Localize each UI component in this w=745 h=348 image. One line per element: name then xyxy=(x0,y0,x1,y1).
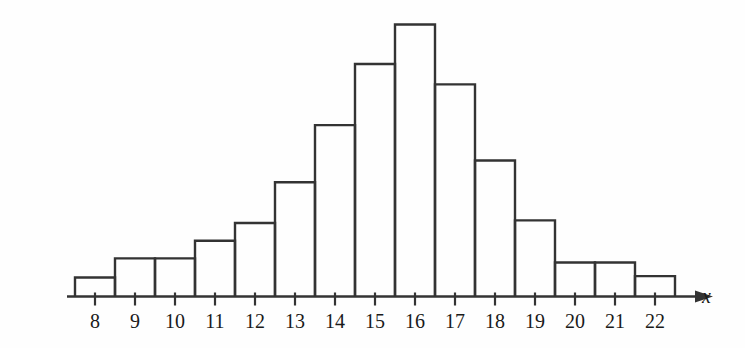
histogram-bar xyxy=(115,258,155,296)
histogram-bar xyxy=(195,241,235,297)
histogram-bar xyxy=(555,263,595,297)
x-axis-tick-label: 11 xyxy=(205,310,224,332)
histogram-bar xyxy=(435,84,475,296)
histogram-bar xyxy=(595,263,635,297)
bars-group xyxy=(75,25,675,297)
x-axis-tick-label: 21 xyxy=(605,310,625,332)
x-axis-tick-label: 9 xyxy=(130,310,140,332)
histogram-bar xyxy=(235,223,275,296)
x-axis-ticks xyxy=(95,293,655,306)
x-axis-tick-label: 13 xyxy=(285,310,305,332)
histogram-bar xyxy=(475,161,515,297)
x-axis-tick-label: 8 xyxy=(90,310,100,332)
x-axis-tick-labels: 8910111213141516171819202122 xyxy=(90,310,665,332)
x-axis-label: x xyxy=(701,285,711,307)
histogram-chart: 8910111213141516171819202122 x xyxy=(0,0,745,348)
x-axis-tick-label: 17 xyxy=(445,310,465,332)
histogram-bar xyxy=(315,125,355,296)
x-axis-tick-label: 15 xyxy=(365,310,385,332)
x-axis-tick-label: 14 xyxy=(325,310,345,332)
x-axis-tick-label: 22 xyxy=(645,310,665,332)
x-axis-tick-label: 19 xyxy=(525,310,545,332)
x-axis-tick-label: 20 xyxy=(565,310,585,332)
histogram-bar xyxy=(515,220,555,296)
histogram-bar xyxy=(355,64,395,297)
histogram-bar xyxy=(155,258,195,296)
x-axis-tick-label: 10 xyxy=(165,310,185,332)
x-axis-tick-label: 16 xyxy=(405,310,425,332)
x-axis-tick-label: 12 xyxy=(245,310,265,332)
histogram-bar xyxy=(275,182,315,296)
histogram-figure: 8910111213141516171819202122 x xyxy=(0,0,745,348)
x-axis-tick-label: 18 xyxy=(485,310,505,332)
histogram-bar xyxy=(395,25,435,297)
